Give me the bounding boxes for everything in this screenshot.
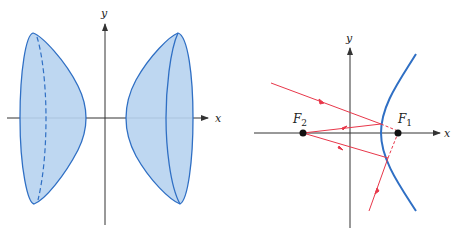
- focus-f2-dot: [300, 130, 307, 137]
- focus-f2-label: F2: [292, 112, 307, 128]
- right-sheet: [126, 33, 193, 204]
- focus-f1-dot: [395, 130, 402, 137]
- left-x-label: x: [215, 112, 222, 125]
- right-x-label: x: [444, 127, 451, 140]
- right-y-label: y: [345, 32, 353, 45]
- left-diagram: x y: [7, 7, 222, 225]
- left-sheet: [20, 33, 86, 204]
- left-y-label: y: [100, 7, 108, 20]
- focus-f1-label: F1: [397, 112, 412, 128]
- light-rays: [271, 83, 398, 211]
- right-diagram: x y F2 F1: [254, 32, 451, 228]
